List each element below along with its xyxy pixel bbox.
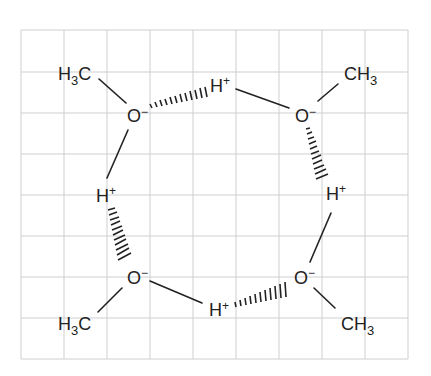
methyl-group-top-left: H3C (58, 64, 91, 88)
oxygen-bottom-right: O− (294, 266, 315, 288)
proton-bottom: H+ (209, 299, 229, 320)
oxygen-top-left: O− (127, 105, 148, 126)
hbond-h2-o3 (108, 208, 131, 260)
bond-o2-me2 (318, 84, 338, 101)
bond-o3-h4 (150, 281, 202, 303)
hbond-o1-h1 (150, 87, 207, 108)
proton-right: H+ (326, 182, 346, 204)
methyl-group-top-right: CH3 (344, 64, 377, 88)
hbond-h4-o4 (235, 282, 286, 307)
bond-h3-o4 (310, 213, 331, 262)
proton-top: H+ (210, 74, 230, 96)
bond-o3-me3 (98, 288, 122, 312)
bond-o4-me4 (314, 288, 335, 308)
oxygen-top-right: O− (295, 105, 316, 126)
diagram-canvas: H3C O− H+ O− CH3 H+ H+ O− O− H+ H3C CH3 (0, 0, 431, 376)
bond-me1-o1 (99, 79, 126, 103)
bond-h1-o2 (236, 89, 289, 108)
proton-left: H+ (96, 184, 116, 206)
atom-labels: H3C O− H+ O− CH3 H+ H+ O− O− H+ H3C CH3 (58, 64, 377, 338)
oxygen-bottom-left: O− (127, 266, 148, 288)
